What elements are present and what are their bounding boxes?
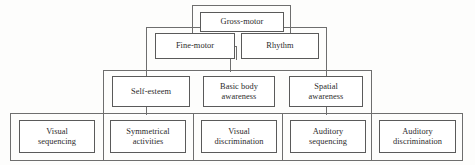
connector-level2-center-stub-2 [236, 46, 237, 60]
node-gross-motor[interactable]: Gross-motor [200, 12, 284, 32]
node-self-esteem[interactable]: Self-esteem [112, 76, 190, 107]
divider-level3-inner-right [282, 113, 283, 161]
node-rhythm[interactable]: Rhythm [241, 33, 319, 59]
node-gross-motor-label: Gross-motor [203, 17, 281, 27]
node-visual-discrimination-label: Visual discrimination [204, 127, 274, 147]
node-rhythm-label: Rhythm [244, 41, 316, 51]
node-fine-motor[interactable]: Fine-motor [155, 33, 235, 59]
divider-level3-right [371, 113, 372, 161]
level-3-frame-mask [104, 114, 371, 116]
level-2-frame-mask [147, 71, 326, 73]
node-basic-body-awareness-label: Basic body awareness [206, 82, 272, 102]
node-symmetrical-activities[interactable]: Symmetrical activities [110, 120, 186, 153]
node-self-esteem-label: Self-esteem [115, 87, 187, 97]
node-fine-motor-label: Fine-motor [158, 41, 232, 51]
node-symmetrical-activities-label: Symmetrical activities [113, 127, 183, 147]
hierarchy-diagram: Gross-motor Fine-motor Rhythm Self-estee… [0, 0, 475, 165]
node-visual-sequencing[interactable]: Visual sequencing [19, 120, 95, 153]
node-auditory-sequencing-label: Auditory sequencing [293, 127, 363, 147]
node-auditory-discrimination[interactable]: Auditory discrimination [379, 120, 456, 153]
divider-level3-left [103, 113, 104, 161]
node-visual-sequencing-label: Visual sequencing [22, 127, 92, 147]
node-spatial-awareness[interactable]: Spatial awareness [289, 76, 363, 107]
divider-level3-inner-left [193, 113, 194, 161]
node-spatial-awareness-label: Spatial awareness [292, 82, 360, 102]
node-visual-discrimination[interactable]: Visual discrimination [201, 120, 277, 153]
node-auditory-sequencing[interactable]: Auditory sequencing [290, 120, 366, 153]
node-basic-body-awareness[interactable]: Basic body awareness [203, 76, 275, 107]
node-auditory-discrimination-label: Auditory discrimination [382, 127, 453, 147]
